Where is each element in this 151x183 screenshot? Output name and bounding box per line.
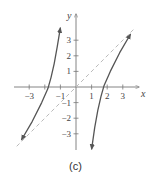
x-tick-label: −3 (24, 91, 34, 101)
y-tick-label: 2 (67, 51, 72, 61)
chart: −3−1123−3−2−1123 x y (0, 0, 151, 160)
y-tick-label: 3 (67, 35, 72, 45)
figure-caption: (c) (0, 160, 151, 172)
y-axis-label: y (66, 10, 72, 21)
y-tick-label: −3 (61, 129, 71, 139)
y-tick-label: −2 (61, 113, 71, 123)
x-tick-label: 3 (121, 91, 126, 101)
x-tick-label: 2 (105, 91, 110, 101)
x-axis-label: x (140, 88, 146, 99)
curve-branch (21, 28, 60, 140)
x-tick-label: 1 (89, 91, 94, 101)
y-tick-label: 1 (67, 66, 72, 76)
y-tick-label: −1 (61, 98, 71, 108)
